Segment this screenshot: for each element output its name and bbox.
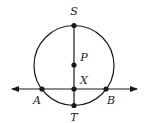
label-P: P bbox=[79, 51, 88, 64]
point-P bbox=[71, 62, 76, 67]
label-T: T bbox=[70, 111, 79, 123]
point-A bbox=[39, 86, 44, 91]
point-B bbox=[103, 86, 108, 91]
point-X bbox=[71, 86, 76, 91]
label-X: X bbox=[79, 74, 89, 87]
point-T bbox=[71, 103, 76, 108]
geometry-diagram: S P X T A B bbox=[0, 0, 146, 123]
label-S: S bbox=[70, 5, 78, 18]
label-A: A bbox=[32, 94, 41, 107]
label-B: B bbox=[106, 94, 115, 107]
point-S bbox=[71, 23, 76, 28]
